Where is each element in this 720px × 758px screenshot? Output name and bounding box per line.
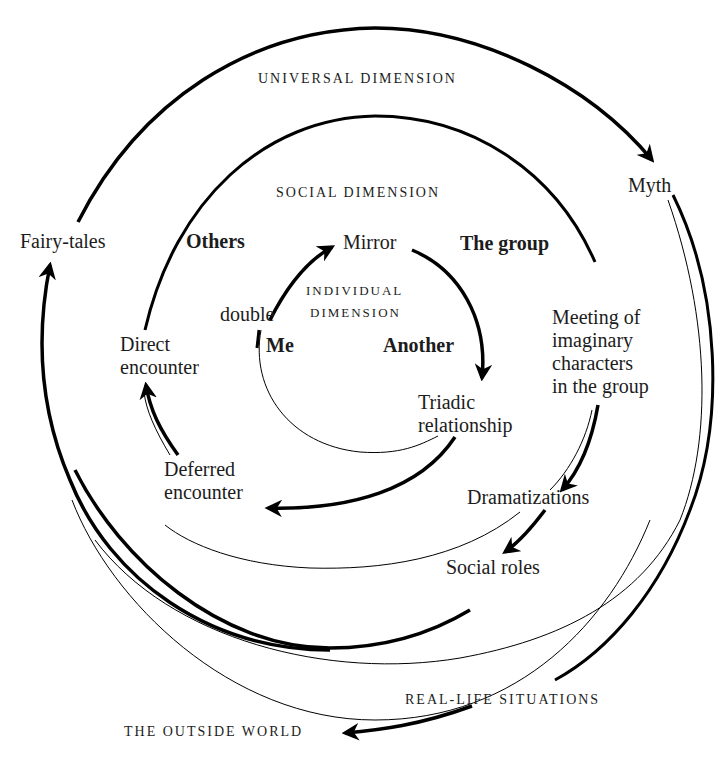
node-fairy-tales: Fairy-tales bbox=[20, 230, 106, 252]
outer-thin-right-arc bbox=[95, 200, 702, 664]
node-meeting-imaginary-characters: Meeting of imaginary characters in the g… bbox=[552, 306, 649, 398]
individual-dimension-label-2: DIMENSION bbox=[310, 306, 401, 320]
dramatizations-to-socialroles-arrow bbox=[505, 510, 545, 552]
node-deferred-encounter: Deferred encounter bbox=[164, 458, 243, 504]
node-outside-world: THE OUTSIDE WORLD bbox=[124, 724, 303, 739]
node-double: double bbox=[220, 303, 274, 325]
social-dimension-label: SOCIAL DIMENSION bbox=[276, 185, 440, 200]
individual-dimension-label-1: INDIVIDUAL bbox=[306, 284, 403, 298]
node-myth: Myth bbox=[628, 174, 671, 196]
node-the-group: The group bbox=[460, 232, 549, 254]
deferred-to-direct-arrow bbox=[146, 385, 178, 455]
meeting-to-dramatizations-arrow bbox=[562, 405, 598, 490]
node-dramatizations: Dramatizations bbox=[467, 486, 589, 508]
node-social-roles: Social roles bbox=[446, 556, 540, 578]
me-tick bbox=[257, 330, 259, 348]
node-real-life-situations: REAL-LIFE SITUATIONS bbox=[405, 692, 600, 707]
node-direct-encounter: Direct encounter bbox=[120, 333, 199, 379]
myth-to-reallife-arc bbox=[555, 195, 713, 680]
social-roles-bottom-arc bbox=[75, 470, 470, 648]
node-triadic-relationship: Triadic relationship bbox=[418, 391, 512, 437]
universal-dimension-label: UNIVERSAL DIMENSION bbox=[258, 71, 457, 86]
outer-thin-left-arc bbox=[72, 500, 650, 720]
node-others: Others bbox=[186, 230, 245, 252]
triadic-to-deferred-arrow bbox=[268, 437, 455, 508]
mirror-to-another-arrow bbox=[412, 250, 483, 378]
node-me: Me bbox=[266, 334, 294, 356]
node-another: Another bbox=[383, 334, 454, 356]
node-mirror: Mirror bbox=[343, 231, 396, 253]
diagram-canvas: UNIVERSAL DIMENSION SOCIAL DIMENSION IND… bbox=[0, 0, 720, 758]
